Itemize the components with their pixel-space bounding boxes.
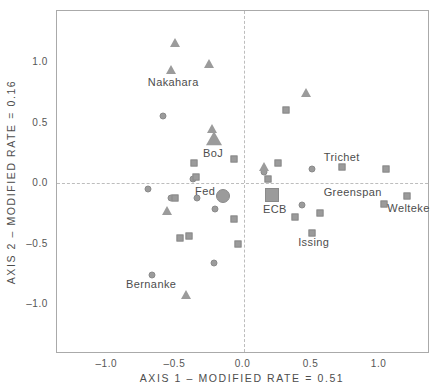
point-label-issing: Issing [298,236,329,248]
scatter-point-square [274,159,281,166]
scatter-plot-figure: AXIS 2 – MODIFIED RATE = 0.16 NakaharaBo… [0,0,441,392]
point-label-bernanke: Bernanke [126,278,176,290]
scatter-point-square-greenspan [380,200,387,207]
scatter-point-square-trichet [338,164,345,171]
y-tick-label: 0.5 [14,116,48,127]
scatter-point-square [230,155,237,162]
scatter-point-triangle [170,38,180,47]
scatter-point-triangle [259,162,269,171]
scatter-point-square [292,214,299,221]
scatter-point-triangle [301,88,311,97]
scatter-point-circle-fed [216,189,230,203]
scatter-point-circle [211,205,218,212]
scatter-point-triangle-boj [206,132,222,146]
scatter-point-triangle-nakahara [166,65,176,74]
scatter-point-circle [210,260,217,267]
y-tick-label: 1.0 [14,55,48,66]
scatter-point-circle [299,201,306,208]
scatter-point-square [176,234,183,241]
point-label-welteke: Welteke [387,202,429,214]
plot-area: NakaharaBoJFedECBTrichetGreenspanWelteke… [56,10,429,353]
point-label-trichet: Trichet [324,151,360,163]
y-tick-label: –1.0 [14,298,48,309]
zero-horizontal-refline [57,183,428,184]
scatter-point-circle [145,186,152,193]
scatter-point-square-ecb [265,188,279,202]
x-axis-title: AXIS 1 – MODIFIED RATE = 0.51 [140,372,345,384]
point-label-ecb: ECB [263,203,287,215]
scatter-point-square-issing [308,229,315,236]
y-tick-label: –0.5 [14,237,48,248]
scatter-point-square [316,210,323,217]
x-tick-label: 0.5 [303,358,319,369]
scatter-point-square [265,176,272,183]
x-tick-label: 0.0 [235,358,251,369]
scatter-point-triangle [204,59,214,68]
scatter-point-square-welteke [403,193,410,200]
scatter-point-square [282,107,289,114]
scatter-point-square [383,165,390,172]
scatter-point-square [235,240,242,247]
point-label-nakahara: Nakahara [148,76,199,88]
scatter-point-square [192,174,199,181]
scatter-point-square [191,159,198,166]
scatter-point-circle [160,113,167,120]
point-label-fed: Fed [195,185,215,197]
scatter-point-square [230,216,237,223]
scatter-point-square [172,194,179,201]
point-label-boj: BoJ [203,147,223,159]
scatter-point-square [186,233,193,240]
y-tick-label: 0.0 [14,177,48,188]
x-tick-label: –1.0 [95,358,117,369]
point-label-greenspan: Greenspan [324,186,382,198]
x-tick-label: 1.0 [371,358,387,369]
scatter-point-triangle [162,206,172,215]
zero-vertical-refline [244,11,245,352]
x-tick-label: –0.5 [163,358,185,369]
scatter-point-triangle-bernanke [181,290,191,299]
scatter-point-circle [308,165,315,172]
